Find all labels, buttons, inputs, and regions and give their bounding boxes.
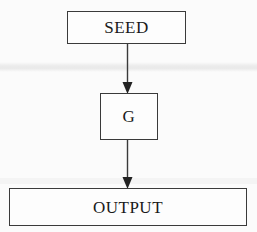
node-seed[interactable]: SEED (67, 11, 186, 44)
node-output[interactable]: OUTPUT (9, 188, 247, 226)
edge-g-to-output (112, 140, 144, 189)
diagram-canvas: SEED G OUTPUT (0, 0, 257, 232)
node-seed-label: SEED (104, 19, 149, 36)
node-g-label: G (123, 108, 136, 125)
node-output-label: OUTPUT (93, 199, 163, 216)
node-g[interactable]: G (100, 93, 158, 140)
edge-seed-to-g (112, 44, 144, 94)
